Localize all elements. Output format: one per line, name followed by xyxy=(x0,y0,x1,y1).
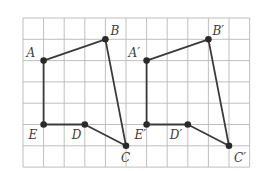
vertex-point xyxy=(205,36,212,43)
vertex-point xyxy=(40,57,47,64)
edge-original xyxy=(44,39,106,60)
edge-image xyxy=(147,39,209,60)
vertex-point xyxy=(102,36,109,43)
vertex-point xyxy=(123,143,130,150)
vertex-label: A′ xyxy=(128,46,141,60)
vertex-label: B′ xyxy=(211,24,224,38)
grid xyxy=(23,18,250,167)
vertex-point xyxy=(82,121,89,128)
vertex-point xyxy=(40,121,47,128)
vertex-label: C′ xyxy=(234,151,246,165)
vertex-point xyxy=(143,57,150,64)
vertex-label: D xyxy=(71,128,82,142)
edge-original xyxy=(105,39,126,146)
vertex-label: A xyxy=(26,46,36,60)
vertex-point xyxy=(185,121,192,128)
translation-diagram: ABCDEA′B′C′D′E′ xyxy=(0,0,262,171)
vertex-point xyxy=(226,143,233,150)
edge-image xyxy=(208,39,229,146)
vertex-label: B xyxy=(109,24,119,38)
vertex-label: E xyxy=(28,128,38,142)
vertex-label: E′ xyxy=(134,128,147,142)
vertex-labels: ABCDEA′B′C′D′E′ xyxy=(26,24,247,165)
vertex-label: C xyxy=(121,151,130,165)
vertex-label: D′ xyxy=(169,128,183,142)
